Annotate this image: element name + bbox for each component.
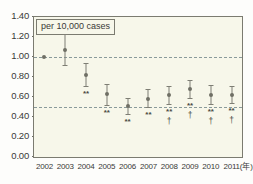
error-bar-cap (63, 65, 68, 66)
x-tick-label: 2005 (98, 162, 115, 172)
error-bar-cap (167, 104, 172, 105)
error-bar-cap (167, 86, 172, 87)
x-axis-unit-label: (年) (240, 162, 253, 172)
chart-figure: 0.000.200.400.600.801.001.201.40 per 10,… (0, 0, 253, 184)
point-marker (126, 104, 130, 108)
plot-area: per 10,000 cases **********†**†**†**† (33, 16, 243, 158)
error-bar-cap (208, 104, 213, 105)
error-bar-cap (125, 98, 130, 99)
error-bar-cap (188, 80, 193, 81)
x-tick-label: 2003 (57, 162, 74, 172)
y-tick-label: 0.60 (11, 91, 29, 101)
point-marker (146, 97, 150, 101)
point-marker (105, 92, 109, 96)
significance-label: ** (228, 107, 234, 115)
error-bar-cap (229, 103, 234, 104)
x-tick-label: 2004 (78, 162, 95, 172)
x-tick-label: 2008 (161, 162, 178, 172)
point-marker (230, 93, 234, 97)
error-bar-cap (125, 114, 130, 115)
y-tick-label: 1.40 (11, 11, 29, 21)
significance-label-secondary: † (208, 117, 213, 125)
significance-label: ** (104, 109, 110, 117)
error-bar-cap (84, 63, 89, 64)
x-axis: (年) 200220032004200520062007200820092010… (33, 162, 253, 178)
error-bar-cap (146, 89, 151, 90)
point-marker (188, 87, 192, 91)
y-tick-label: 0.20 (11, 131, 29, 141)
significance-label: ** (145, 111, 151, 119)
x-tick-label: 2011 (223, 162, 239, 172)
point-marker (63, 48, 67, 52)
y-tick-label: 1.00 (11, 51, 29, 61)
x-tick-label: 2010 (202, 162, 219, 172)
point-marker (42, 55, 46, 59)
significance-label: ** (208, 108, 214, 116)
error-bar-cap (104, 84, 109, 85)
y-tick-label: 0.80 (11, 71, 29, 81)
error-bar-cap (229, 86, 234, 87)
significance-label: ** (124, 118, 130, 126)
y-tick-label: 0.40 (11, 111, 29, 121)
significance-label-secondary: † (167, 117, 172, 125)
significance-label: ** (166, 108, 172, 116)
significance-label: ** (83, 90, 89, 98)
significance-label: ** (187, 102, 193, 110)
x-tick-label: 2002 (36, 162, 53, 172)
x-tick-label: 2009 (182, 162, 199, 172)
point-marker (209, 93, 213, 97)
point-marker (167, 93, 171, 97)
y-tick-label: 0.00 (11, 151, 29, 161)
significance-label-secondary: † (229, 116, 234, 124)
x-tick-label: 2006 (119, 162, 136, 172)
error-bar-cap (104, 105, 109, 106)
error-bar-cap (208, 85, 213, 86)
error-bar-cap (84, 86, 89, 87)
y-axis: 0.000.200.400.600.801.001.201.40 (0, 0, 32, 184)
error-bar-cap (146, 107, 151, 108)
significance-label-secondary: † (188, 111, 193, 119)
plot-inner: **********†**†**†**† (34, 17, 242, 157)
y-tick-label: 1.20 (11, 31, 29, 41)
error-bar-cap (63, 34, 68, 35)
point-marker (84, 73, 88, 77)
error-bar-cap (188, 98, 193, 99)
x-tick-label: 2007 (140, 162, 157, 172)
